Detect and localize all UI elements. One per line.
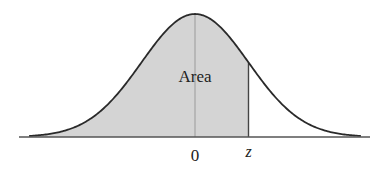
z-tick-label: z <box>244 143 252 160</box>
normal-distribution-chart: Area 0 z <box>0 0 382 175</box>
shaded-area <box>29 14 248 137</box>
zero-tick-label: 0 <box>191 146 200 165</box>
area-label: Area <box>178 67 211 86</box>
